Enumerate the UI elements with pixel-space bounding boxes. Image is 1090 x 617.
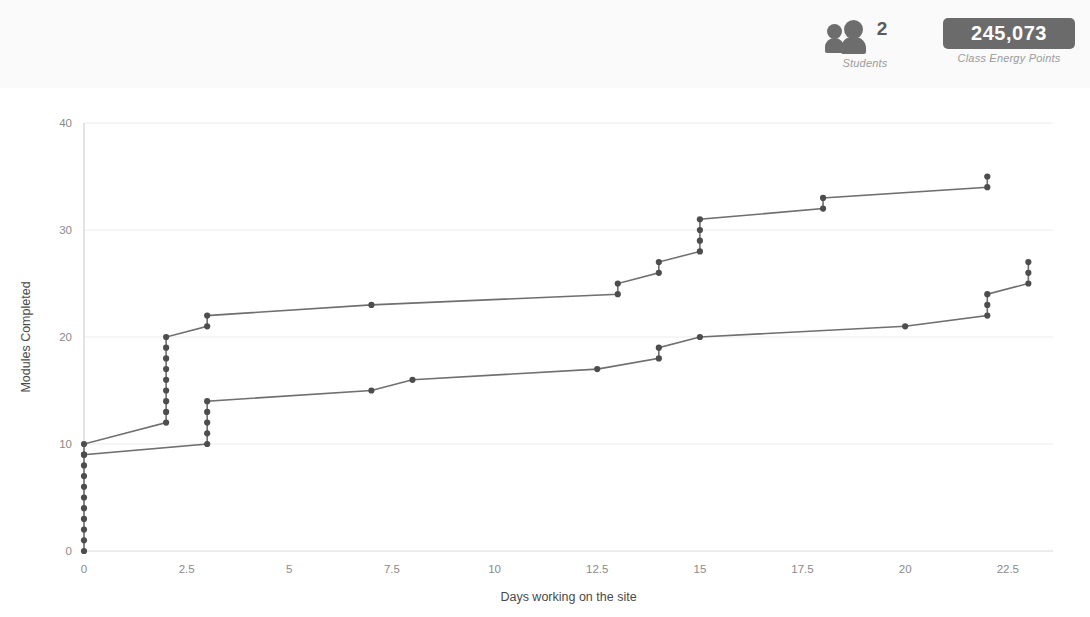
data-point bbox=[81, 505, 87, 511]
data-point bbox=[697, 238, 703, 244]
energy-points-value: 245,073 bbox=[943, 18, 1075, 49]
data-point bbox=[984, 302, 990, 308]
x-tick-label: 22.5 bbox=[997, 563, 1019, 575]
data-point bbox=[163, 387, 169, 393]
data-point bbox=[984, 313, 990, 319]
data-point bbox=[81, 462, 87, 468]
data-point bbox=[81, 516, 87, 522]
data-point bbox=[81, 452, 87, 458]
students-label: Students bbox=[842, 57, 887, 69]
data-point bbox=[1025, 259, 1031, 265]
x-tick-label: 5 bbox=[286, 563, 292, 575]
students-row: 2 bbox=[825, 18, 888, 56]
x-tick-label: 12.5 bbox=[586, 563, 608, 575]
energy-points-stat[interactable]: 245,073 Class Energy Points bbox=[934, 18, 1084, 64]
data-point bbox=[1025, 280, 1031, 286]
data-point bbox=[81, 484, 87, 490]
data-point bbox=[656, 355, 662, 361]
data-point bbox=[204, 441, 210, 447]
students-count: 2 bbox=[877, 18, 888, 38]
modules-completed-line-chart: 01020304002.557.51012.51517.52022.5Days … bbox=[0, 88, 1090, 617]
x-tick-label: 2.5 bbox=[179, 563, 195, 575]
data-point bbox=[697, 216, 703, 222]
y-tick-label: 20 bbox=[59, 331, 72, 343]
data-point bbox=[163, 398, 169, 404]
energy-points-label: Class Energy Points bbox=[958, 52, 1061, 64]
y-tick-label: 0 bbox=[66, 545, 72, 557]
series-line bbox=[84, 262, 1028, 551]
data-point bbox=[163, 355, 169, 361]
chart-container: 01020304002.557.51012.51517.52022.5Days … bbox=[0, 88, 1090, 617]
data-point bbox=[204, 313, 210, 319]
data-point bbox=[163, 334, 169, 340]
data-point bbox=[368, 387, 374, 393]
x-tick-label: 20 bbox=[899, 563, 912, 575]
data-point bbox=[204, 409, 210, 415]
data-point bbox=[409, 377, 415, 383]
data-point bbox=[204, 398, 210, 404]
data-point bbox=[697, 227, 703, 233]
data-point bbox=[163, 420, 169, 426]
data-point bbox=[81, 537, 87, 543]
data-point bbox=[984, 184, 990, 190]
series-line bbox=[84, 177, 987, 455]
data-point bbox=[163, 377, 169, 383]
data-point bbox=[163, 366, 169, 372]
header-stats: 2 Students 245,073 Class Energy Points bbox=[800, 18, 1084, 69]
data-point bbox=[984, 173, 990, 179]
x-tick-label: 15 bbox=[693, 563, 706, 575]
x-tick-label: 7.5 bbox=[384, 563, 400, 575]
data-point bbox=[368, 302, 374, 308]
data-point bbox=[594, 366, 600, 372]
data-point bbox=[697, 248, 703, 254]
data-point bbox=[697, 334, 703, 340]
data-point bbox=[81, 548, 87, 554]
y-tick-label: 40 bbox=[59, 117, 72, 129]
x-axis-title: Days working on the site bbox=[500, 590, 636, 604]
x-tick-label: 10 bbox=[488, 563, 501, 575]
data-point bbox=[656, 259, 662, 265]
data-point bbox=[656, 270, 662, 276]
data-point bbox=[204, 420, 210, 426]
x-tick-label: 17.5 bbox=[791, 563, 813, 575]
data-point bbox=[81, 473, 87, 479]
header-band: 2 Students 245,073 Class Energy Points bbox=[0, 0, 1090, 89]
data-point bbox=[820, 195, 826, 201]
screenshot-root: 2 Students 245,073 Class Energy Points 0… bbox=[0, 0, 1090, 617]
data-point bbox=[1025, 270, 1031, 276]
data-point bbox=[984, 291, 990, 297]
y-tick-label: 10 bbox=[59, 438, 72, 450]
people-icon bbox=[825, 18, 873, 54]
series-2 bbox=[81, 259, 1032, 554]
data-point bbox=[656, 345, 662, 351]
data-point bbox=[163, 409, 169, 415]
data-point bbox=[204, 323, 210, 329]
data-point bbox=[81, 441, 87, 447]
data-point bbox=[163, 345, 169, 351]
y-tick-label: 30 bbox=[59, 224, 72, 236]
data-point bbox=[902, 323, 908, 329]
data-point bbox=[81, 494, 87, 500]
students-stat[interactable]: 2 Students bbox=[800, 18, 912, 69]
data-point bbox=[615, 280, 621, 286]
y-axis-title: Modules Completed bbox=[19, 281, 33, 392]
data-point bbox=[615, 291, 621, 297]
data-point bbox=[81, 527, 87, 533]
x-tick-label: 0 bbox=[81, 563, 87, 575]
data-point bbox=[820, 206, 826, 212]
series-1 bbox=[81, 173, 991, 457]
data-point bbox=[204, 430, 210, 436]
